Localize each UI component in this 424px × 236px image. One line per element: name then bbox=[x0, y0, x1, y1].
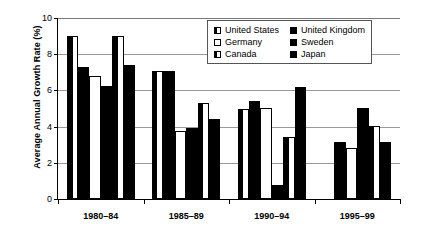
legend-label: Japan bbox=[301, 49, 326, 59]
bar bbox=[260, 108, 271, 199]
x-tick-mark bbox=[400, 199, 401, 204]
y-tick-label: 8 bbox=[47, 49, 52, 59]
x-tick-mark bbox=[315, 199, 316, 204]
legend-item: United States bbox=[214, 25, 279, 35]
x-tick-label: 1990–94 bbox=[254, 211, 289, 221]
legend-item: Canada bbox=[214, 49, 279, 59]
bar bbox=[369, 126, 380, 199]
x-tick-mark bbox=[58, 199, 59, 204]
bar bbox=[249, 101, 260, 199]
y-tick-label: 6 bbox=[47, 85, 52, 95]
bar bbox=[238, 109, 249, 199]
bar bbox=[357, 108, 368, 199]
bar bbox=[295, 87, 306, 199]
bar-chart: Average Annual Growth Rate (%) 0246810 1… bbox=[0, 0, 424, 236]
bar bbox=[152, 71, 163, 200]
legend-item: Japan bbox=[290, 49, 365, 59]
legend-swatch-icon bbox=[214, 51, 221, 58]
x-tick-label: 1995–99 bbox=[340, 211, 375, 221]
legend-label: United States bbox=[225, 25, 279, 35]
bar bbox=[78, 67, 89, 199]
bar bbox=[186, 128, 197, 199]
legend-item: Sweden bbox=[290, 37, 365, 47]
bar bbox=[198, 103, 209, 199]
bar bbox=[89, 76, 100, 199]
bar bbox=[334, 142, 345, 199]
bar bbox=[283, 137, 294, 199]
legend-label: Sweden bbox=[301, 37, 334, 47]
y-tick-label: 4 bbox=[47, 122, 52, 132]
bar bbox=[67, 36, 78, 199]
bar bbox=[272, 185, 283, 199]
y-tick-label: 10 bbox=[42, 13, 52, 23]
bar bbox=[209, 119, 220, 199]
y-axis-title: Average Annual Growth Rate (%) bbox=[32, 2, 42, 192]
legend-label: Germany bbox=[225, 37, 262, 47]
legend-swatch-icon bbox=[214, 27, 221, 34]
legend: United StatesUnited KingdomGermanySweden… bbox=[207, 20, 372, 64]
legend-swatch-icon bbox=[290, 27, 297, 34]
bar bbox=[380, 142, 391, 199]
x-tick-mark bbox=[144, 199, 145, 204]
legend-swatch-icon bbox=[290, 39, 297, 46]
legend-swatch-icon bbox=[214, 39, 221, 46]
y-tick-label: 2 bbox=[47, 158, 52, 168]
bar bbox=[163, 71, 174, 200]
legend-label: United Kingdom bbox=[301, 25, 365, 35]
legend-item: Germany bbox=[214, 37, 279, 47]
legend-item: United Kingdom bbox=[290, 25, 365, 35]
legend-swatch-icon bbox=[290, 51, 297, 58]
legend-label: Canada bbox=[225, 49, 257, 59]
x-tick-label: 1985–89 bbox=[169, 211, 204, 221]
bar bbox=[346, 148, 357, 199]
y-tick-label: 0 bbox=[47, 194, 52, 204]
x-tick-label: 1980–84 bbox=[83, 211, 118, 221]
bar bbox=[124, 65, 135, 199]
bar bbox=[112, 36, 123, 199]
x-tick-mark bbox=[229, 199, 230, 204]
bar bbox=[175, 131, 186, 199]
bar bbox=[101, 86, 112, 199]
